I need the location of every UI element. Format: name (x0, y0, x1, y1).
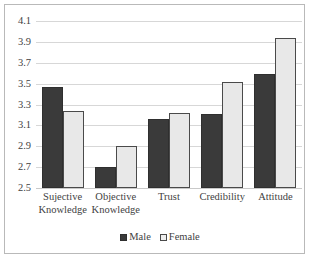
legend-swatch-male-icon (120, 234, 127, 241)
x-axis-label-line: Knowledge (89, 204, 142, 217)
bar-group (89, 21, 142, 188)
x-axis-label-line: Trust (142, 191, 195, 204)
bar-male (42, 87, 63, 188)
legend-label: Male (129, 232, 151, 243)
bar-group (36, 21, 89, 188)
legend-swatch-female-icon (160, 234, 167, 241)
bar-male (254, 74, 275, 188)
x-axis-label-line: Sujective (36, 191, 89, 204)
bar-male (201, 114, 222, 188)
bar-male (148, 119, 169, 188)
x-axis-category-label: Credibility (196, 191, 249, 204)
y-axis-tick-label: 3.7 (18, 58, 31, 69)
y-axis-tick-label: 3.5 (18, 78, 31, 89)
bar-group (249, 21, 302, 188)
legend-label: Female (169, 232, 200, 243)
x-axis-category-label: ObjectiveKnowledge (89, 191, 142, 216)
bar-series-container (36, 21, 302, 188)
bar-female (116, 146, 137, 188)
bar-male (95, 167, 116, 188)
chart-legend: MaleFemale (5, 232, 310, 243)
bar-group (196, 21, 249, 188)
bar-female (169, 113, 190, 188)
chart-figure: 2.52.72.93.13.33.53.73.94.1 SujectiveKno… (0, 0, 310, 259)
legend-item-male[interactable]: Male (120, 232, 151, 243)
y-axis-tick-label: 3.9 (18, 37, 31, 48)
bar-female (63, 111, 84, 188)
gridline (36, 188, 302, 189)
y-axis-tick-label: 3.3 (18, 99, 31, 110)
x-axis-label-line: Objective (89, 191, 142, 204)
y-axis-tick-label: 2.5 (18, 183, 31, 194)
legend-item-female[interactable]: Female (160, 232, 200, 243)
y-axis-tick-label: 2.7 (18, 162, 31, 173)
x-axis-category-label: Attitude (249, 191, 302, 204)
bar-group (142, 21, 195, 188)
bar-female (222, 82, 243, 188)
y-axis-tick-label: 2.9 (18, 141, 31, 152)
y-axis-tick-label: 3.1 (18, 120, 31, 131)
x-axis-category-label: SujectiveKnowledge (36, 191, 89, 216)
x-axis-label-line: Attitude (249, 191, 302, 204)
x-axis-category-label: Trust (142, 191, 195, 204)
y-axis-tick-label: 4.1 (18, 16, 31, 27)
x-axis-category-labels: SujectiveKnowledgeObjectiveKnowledgeTrus… (36, 191, 302, 231)
bar-female (275, 38, 296, 188)
x-axis-label-line: Credibility (196, 191, 249, 204)
plot-area: 2.52.72.93.13.33.53.73.94.1 (36, 21, 302, 188)
x-axis-label-line: Knowledge (36, 204, 89, 217)
chart-frame: 2.52.72.93.13.33.53.73.94.1 SujectiveKno… (4, 4, 305, 254)
